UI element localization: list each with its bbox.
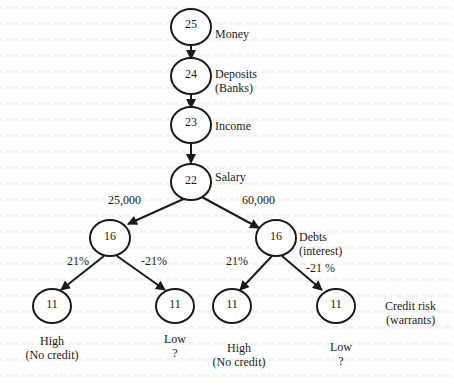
node-label-salary: Salary (215, 170, 246, 184)
level-label-warrants: (warrants) (386, 313, 435, 327)
node-value: 23 (176, 115, 206, 129)
node-value: 11 (160, 297, 190, 311)
edge-label-21pct: 21% (67, 254, 89, 268)
node-value: 16 (95, 229, 125, 243)
edge-label-60000: 60,000 (242, 193, 275, 207)
edge-label-25000: 25,000 (108, 193, 141, 207)
node-value: 22 (176, 173, 206, 187)
node-label-money: Money (215, 27, 249, 41)
node-value: 24 (176, 67, 206, 81)
node-value: 11 (37, 297, 67, 311)
leaf-label-low: Low (155, 332, 195, 346)
node-label-income: Income (215, 119, 251, 133)
edge-label-neg21pct: -21 % (306, 261, 335, 275)
leaf-sublabel-question: ? (155, 346, 195, 360)
leaf-label-low: Low (321, 340, 361, 354)
edge-label-21pct: 21% (226, 254, 248, 268)
tree-diagram (0, 0, 454, 386)
leaf-label-high: High (12, 334, 92, 348)
leaf-label-high: High (199, 341, 279, 355)
node-label-deposits: Deposits (215, 67, 257, 81)
node-label-debts: Debts (299, 230, 327, 244)
leaf-sublabel-no-credit: (No credit) (12, 348, 92, 362)
level-label-credit-risk: Credit risk (385, 299, 436, 313)
leaf-sublabel-question: ? (321, 354, 361, 368)
node-value: 16 (261, 229, 291, 243)
node-value: 11 (321, 297, 351, 311)
node-sublabel-interest: (interest) (299, 244, 342, 258)
edge-label-neg21pct: -21% (141, 254, 167, 268)
node-sublabel-banks: (Banks) (215, 81, 253, 95)
node-value: 25 (176, 17, 206, 31)
node-value: 11 (217, 297, 247, 311)
leaf-sublabel-no-credit: (No credit) (199, 355, 279, 369)
